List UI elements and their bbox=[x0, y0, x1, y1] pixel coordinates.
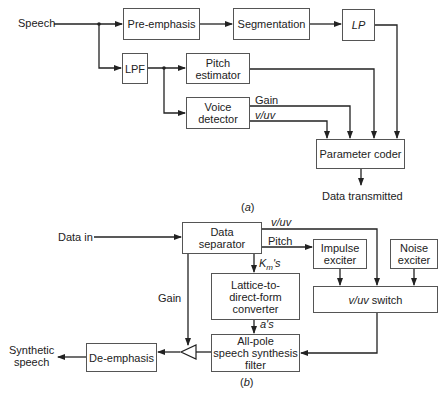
parameter-coder-block: Parameter coder bbox=[316, 139, 405, 169]
data-in-label: Data in bbox=[58, 231, 93, 243]
vuv-signal-label-a: v/uv bbox=[255, 109, 275, 121]
noise-exciter-label-line1: Noise bbox=[400, 242, 428, 254]
pitch-estimator-label-line2: estimator bbox=[195, 69, 240, 81]
impulse-exciter-block: Impulse exciter bbox=[313, 239, 367, 269]
lpf-block: LPF bbox=[122, 53, 148, 84]
pre-emphasis-label: Pre-emphasis bbox=[128, 18, 196, 30]
lattice-converter-block: Lattice-to- direct-form converter bbox=[211, 273, 300, 320]
gain-signal-label-b: Gain bbox=[158, 292, 181, 304]
lattice-label-line2: direct-form bbox=[229, 291, 282, 303]
km-sub: m bbox=[266, 263, 273, 272]
lpf-label: LPF bbox=[125, 63, 145, 75]
synthetic-speech-line1: Synthetic bbox=[9, 344, 54, 356]
km-suffix: 's bbox=[273, 257, 281, 269]
pre-emphasis-block: Pre-emphasis bbox=[123, 8, 200, 40]
pitch-signal-label: Pitch bbox=[268, 235, 292, 247]
gain-signal-label-a: Gain bbox=[255, 94, 278, 106]
vuv-signal-label-b: v/uv bbox=[271, 216, 291, 228]
data-transmitted-label: Data transmitted bbox=[322, 190, 403, 202]
all-pole-label-line1: All-pole bbox=[237, 335, 274, 347]
voice-detector-label-line1: Voice bbox=[205, 101, 232, 113]
caption-a-letter: a bbox=[245, 201, 251, 213]
synthetic-speech-line2: speech bbox=[9, 356, 54, 368]
as-signal-label: a's bbox=[260, 318, 274, 330]
voice-detector-block: Voice detector bbox=[186, 97, 250, 129]
pitch-estimator-block: Pitch estimator bbox=[186, 53, 250, 84]
all-pole-label-line3: filter bbox=[245, 359, 266, 371]
lattice-label-line1: Lattice-to- bbox=[231, 279, 280, 291]
vuv-switch-label: v/uv switch bbox=[349, 294, 403, 306]
gain-amplifier-icon bbox=[181, 345, 196, 359]
all-pole-filter-block: All-pole speech synthesis filter bbox=[211, 334, 300, 372]
segmentation-label: Segmentation bbox=[238, 18, 306, 30]
voice-detector-label-line2: detector bbox=[198, 113, 238, 125]
caption-a: (a) bbox=[241, 201, 254, 213]
vuv-switch-block: v/uv switch bbox=[313, 286, 438, 313]
synthetic-speech-label: Synthetic speech bbox=[9, 344, 54, 368]
data-separator-block: Data separator bbox=[182, 222, 262, 254]
lp-block: LP bbox=[342, 9, 375, 41]
lattice-label-line3: converter bbox=[233, 303, 279, 315]
noise-exciter-label-line2: exciter bbox=[398, 254, 430, 266]
segmentation-block: Segmentation bbox=[233, 8, 310, 40]
caption-b: (b) bbox=[240, 376, 253, 388]
data-separator-label-line2: separator bbox=[199, 238, 245, 250]
de-emphasis-block: De-emphasis bbox=[86, 343, 157, 372]
de-emphasis-label: De-emphasis bbox=[89, 352, 154, 364]
all-pole-label-line2: speech synthesis bbox=[213, 347, 297, 359]
lp-label: LP bbox=[352, 19, 365, 31]
speech-input-label: Speech bbox=[18, 17, 55, 29]
impulse-exciter-label-line2: exciter bbox=[324, 254, 356, 266]
data-separator-label-line1: Data bbox=[210, 226, 233, 238]
vuv-switch-italic: v/uv bbox=[349, 294, 369, 306]
noise-exciter-block: Noise exciter bbox=[390, 239, 438, 269]
impulse-exciter-label-line1: Impulse bbox=[321, 242, 360, 254]
km-signal-label: Km's bbox=[259, 257, 281, 274]
vuv-switch-text: switch bbox=[369, 294, 403, 306]
parameter-coder-label: Parameter coder bbox=[320, 148, 402, 160]
pitch-estimator-label-line1: Pitch bbox=[206, 57, 230, 69]
caption-b-letter: b bbox=[244, 376, 250, 388]
